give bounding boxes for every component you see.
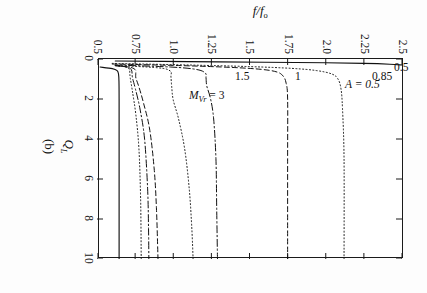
y-tick-label: 0.75	[130, 0, 142, 54]
figure-canvas: 0.50.751.01.251.51.752.02.252.5 f/fo 024…	[0, 0, 427, 293]
x-axis-title: QL	[59, 0, 77, 293]
curve-m-vr-4	[115, 66, 149, 259]
curve-m-vr-2	[115, 65, 193, 259]
y-axis-title: f/fo	[253, 3, 268, 21]
x-tick-label: 0	[83, 43, 95, 73]
curve-m-vr-0-85	[112, 63, 344, 259]
annotation-1-5: 1.5	[235, 70, 249, 82]
annotation-1: 1	[295, 70, 301, 82]
annotation-0-5: 0.5	[394, 61, 408, 73]
y-tick-label: 2.25	[359, 0, 371, 54]
curve-m-vr-0-5	[115, 61, 402, 65]
x-tick-label: 10	[83, 243, 95, 273]
x-tick-label: 6	[83, 163, 95, 193]
y-tick-label: 1.25	[206, 0, 218, 54]
annotation-m-vr-3: MVr = 3	[190, 89, 225, 104]
y-tick-label: 1.0	[168, 0, 180, 54]
panel-caption: (b)	[41, 0, 57, 293]
x-tick-label: 4	[83, 123, 95, 153]
y-tick-label: 2.5	[397, 0, 409, 54]
annotation-0-85: 0.85	[373, 70, 393, 82]
y-tick-label: 1.75	[283, 0, 295, 54]
rotated-figure-stage: 0.50.751.01.251.51.752.02.252.5 f/fo 024…	[0, 0, 427, 293]
y-tick-label: 2.0	[321, 0, 333, 54]
curve-m-vr-large	[100, 67, 119, 259]
figure-root: 0.50.751.01.251.51.752.02.252.5 f/fo 024…	[0, 0, 427, 293]
x-tick-label: 2	[83, 83, 95, 113]
x-tick-label: 8	[83, 203, 95, 233]
